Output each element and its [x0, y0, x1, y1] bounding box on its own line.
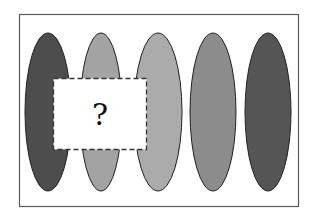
- question-mark: ?: [53, 78, 147, 150]
- puzzle-figure: [0, 0, 317, 219]
- ellipse-4: [190, 33, 236, 191]
- ellipse-5: [245, 33, 291, 191]
